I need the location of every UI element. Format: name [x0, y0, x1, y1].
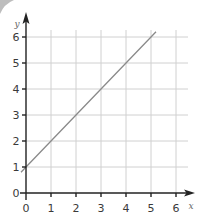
svg-text:3: 3	[98, 202, 105, 215]
svg-text:0: 0	[13, 187, 20, 200]
svg-text:6: 6	[173, 202, 180, 215]
data-line	[21, 32, 156, 172]
svg-text:4: 4	[13, 83, 20, 96]
svg-text:1: 1	[48, 202, 55, 215]
svg-text:5: 5	[148, 202, 155, 215]
svg-text:5: 5	[13, 57, 20, 70]
corner-artifact	[0, 0, 14, 14]
svg-text:2: 2	[73, 202, 80, 215]
svg-text:1: 1	[13, 161, 20, 174]
svg-text:2: 2	[13, 135, 20, 148]
svg-text:3: 3	[13, 109, 20, 122]
svg-text:0: 0	[23, 202, 30, 215]
svg-text:4: 4	[123, 202, 130, 215]
y-axis-label: y	[13, 19, 20, 29]
grid	[26, 30, 188, 193]
axes	[20, 18, 189, 200]
x-tick-labels: 0 1 2 3 4 5 6	[23, 202, 180, 215]
svg-text:6: 6	[13, 31, 20, 44]
line-chart: 0 1 2 3 4 5 6 0 1 2 3 4 5 6 y x	[0, 0, 199, 222]
x-axis-label: x	[188, 201, 193, 211]
y-tick-labels: 0 1 2 3 4 5 6	[13, 31, 20, 200]
